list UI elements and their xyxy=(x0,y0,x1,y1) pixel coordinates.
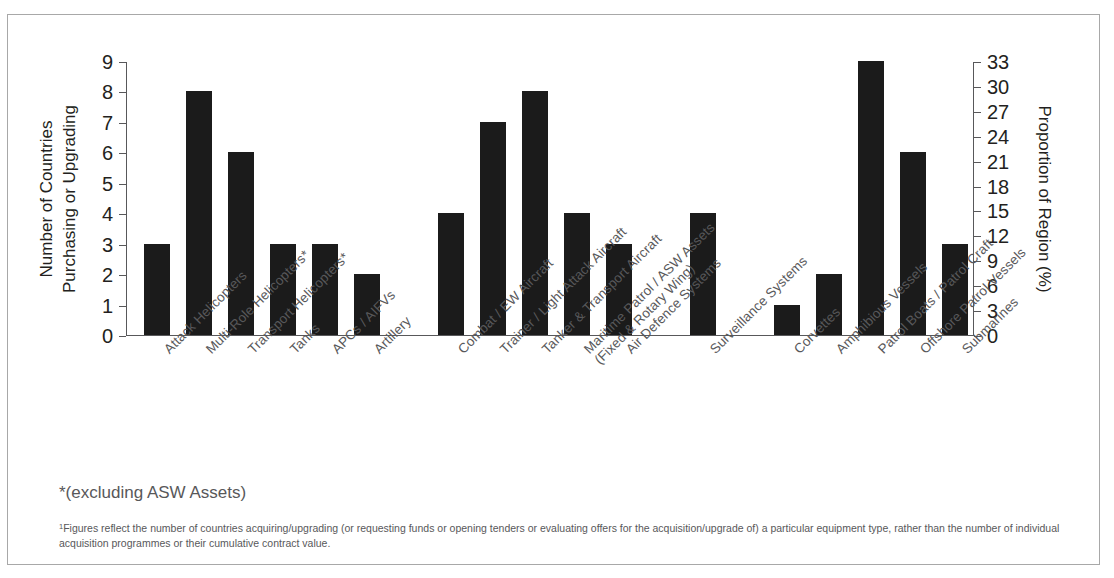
y-tick-left xyxy=(119,92,126,93)
y-tick-right xyxy=(974,162,981,163)
y-tick-right xyxy=(974,87,981,88)
y-axis-left-title-line2: Purchasing or Upgrading xyxy=(58,105,81,293)
footnote-text: Figures reflect the number of countries … xyxy=(59,522,1059,549)
y-tick-label-left: 8 xyxy=(102,82,113,102)
y-tick-right xyxy=(974,211,981,212)
bar xyxy=(438,213,464,335)
y-tick-left xyxy=(119,275,126,276)
y-tick-label-right: 18 xyxy=(987,177,1009,197)
y-tick-right xyxy=(974,62,981,63)
footnote: 1Figures reflect the number of countries… xyxy=(59,521,1079,551)
y-tick-label-left: 9 xyxy=(102,52,113,72)
y-tick-label-left: 2 xyxy=(102,265,113,285)
y-tick-right xyxy=(974,311,981,312)
y-tick-right xyxy=(974,187,981,188)
chart-page: Number of Countries Purchasing or Upgrad… xyxy=(0,0,1114,578)
y-tick-left xyxy=(119,153,126,154)
y-axis-left-title-line1: Number of Countries xyxy=(35,105,58,293)
y-tick-label-left: 3 xyxy=(102,235,113,255)
y-axis-left-line xyxy=(126,62,127,336)
y-tick-left xyxy=(119,336,126,337)
y-tick-label-right: 24 xyxy=(987,127,1009,147)
y-tick-label-left: 5 xyxy=(102,174,113,194)
y-tick-label-left: 4 xyxy=(102,204,113,224)
bar xyxy=(774,305,800,335)
asterisk-note: *(excluding ASW Assets) xyxy=(59,483,246,503)
y-tick-left xyxy=(119,306,126,307)
bar xyxy=(144,244,170,335)
y-tick-label-right: 30 xyxy=(987,77,1009,97)
y-tick-label-right: 33 xyxy=(987,52,1009,72)
bar xyxy=(858,61,884,335)
y-tick-right xyxy=(974,137,981,138)
y-tick-label-left: 7 xyxy=(102,113,113,133)
y-tick-left xyxy=(119,245,126,246)
y-tick-left xyxy=(119,184,126,185)
y-tick-left xyxy=(119,214,126,215)
y-tick-right xyxy=(974,112,981,113)
y-tick-label-right: 27 xyxy=(987,102,1009,122)
y-tick-left xyxy=(119,123,126,124)
y-axis-right-title: Proportion of Region (%) xyxy=(1032,62,1056,336)
y-tick-label-right: 21 xyxy=(987,152,1009,172)
y-tick-label-left: 0 xyxy=(102,326,113,346)
chart-frame: Number of Countries Purchasing or Upgrad… xyxy=(7,14,1100,565)
y-tick-left xyxy=(119,62,126,63)
y-tick-label-left: 1 xyxy=(102,296,113,316)
y-tick-label-right: 15 xyxy=(987,201,1009,221)
y-tick-label-left: 6 xyxy=(102,143,113,163)
y-axis-left-title: Number of Countries Purchasing or Upgrad… xyxy=(26,62,90,336)
y-tick-right xyxy=(974,236,981,237)
